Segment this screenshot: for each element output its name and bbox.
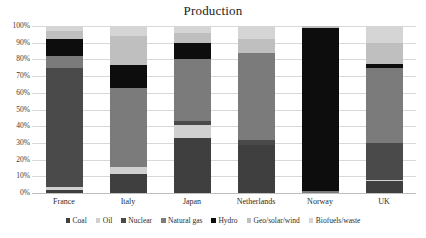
production-stacked-bar-chart: Production 100%90%80%70%60%50%40%30%20%1… bbox=[0, 0, 426, 238]
bar-segment-geo-solar-wind[interactable] bbox=[366, 43, 403, 65]
legend-item-oil[interactable]: Oil bbox=[96, 216, 113, 225]
bar-segment-biofuels-waste[interactable] bbox=[238, 26, 275, 39]
gridline bbox=[32, 193, 416, 194]
bar-segment-natural-gas[interactable] bbox=[174, 59, 211, 121]
legend-label-geo-solar-wind: Geo/solar/wind bbox=[254, 216, 300, 225]
bar-segment-hydro[interactable] bbox=[174, 43, 211, 60]
x-axis-label-france: France bbox=[32, 196, 96, 208]
y-axis-tick-label: 40% bbox=[0, 122, 30, 130]
bar-segment-biofuels-waste[interactable] bbox=[110, 26, 147, 36]
bar-segment-nuclear[interactable] bbox=[46, 68, 83, 187]
y-axis-tick-label: 0% bbox=[0, 189, 30, 197]
bar-segment-biofuels-waste[interactable] bbox=[366, 26, 403, 43]
x-axis-label-italy: Italy bbox=[96, 196, 160, 208]
gridline bbox=[32, 126, 416, 127]
bar-segment-geo-solar-wind[interactable] bbox=[46, 31, 83, 39]
bar-japan[interactable] bbox=[174, 26, 211, 193]
legend-swatch-coal bbox=[66, 218, 71, 223]
bar-segment-geo-solar-wind[interactable] bbox=[174, 33, 211, 43]
legend-label-biofuels-waste: Biofuels/waste bbox=[316, 216, 361, 225]
chart-title: Production bbox=[0, 3, 426, 19]
bar-segment-hydro[interactable] bbox=[110, 65, 147, 88]
gridline bbox=[32, 59, 416, 60]
bar-segment-nuclear[interactable] bbox=[366, 143, 403, 180]
legend-label-coal: Coal bbox=[73, 216, 87, 225]
legend-label-oil: Oil bbox=[103, 216, 113, 225]
bar-segment-natural-gas[interactable] bbox=[110, 88, 147, 167]
bar-segment-hydro[interactable] bbox=[46, 39, 83, 56]
plot-area bbox=[32, 26, 416, 193]
legend-item-coal[interactable]: Coal bbox=[66, 216, 87, 225]
bar-segment-coal[interactable] bbox=[238, 145, 275, 193]
bar-france[interactable] bbox=[46, 26, 83, 193]
bar-italy[interactable] bbox=[110, 26, 147, 193]
gridline bbox=[32, 26, 416, 27]
bar-segment-coal[interactable] bbox=[46, 190, 83, 193]
legend-swatch-natural-gas bbox=[161, 218, 166, 223]
y-axis-tick-label: 70% bbox=[0, 72, 30, 80]
y-axis-tick-label: 90% bbox=[0, 39, 30, 47]
legend-swatch-hydro bbox=[211, 218, 216, 223]
bar-segment-geo-solar-wind[interactable] bbox=[238, 39, 275, 52]
gridline bbox=[32, 43, 416, 44]
bar-segment-coal[interactable] bbox=[366, 181, 403, 193]
legend-swatch-biofuels-waste bbox=[309, 218, 314, 223]
legend-label-hydro: Hydro bbox=[218, 216, 237, 225]
y-axis-tick-label: 30% bbox=[0, 139, 30, 147]
bar-uk[interactable] bbox=[366, 26, 403, 193]
bar-segment-biofuels-waste[interactable] bbox=[174, 26, 211, 33]
bar-segment-natural-gas[interactable] bbox=[238, 53, 275, 140]
gridline bbox=[32, 93, 416, 94]
x-axis-label-norway: Norway bbox=[288, 196, 352, 208]
bar-netherlands[interactable] bbox=[238, 26, 275, 193]
bar-segment-natural-gas[interactable] bbox=[46, 56, 83, 68]
legend-swatch-oil bbox=[96, 218, 101, 223]
legend-item-natural-gas[interactable]: Natural gas bbox=[161, 216, 202, 225]
bar-segment-coal[interactable] bbox=[110, 174, 147, 193]
y-axis-tick-label: 10% bbox=[0, 172, 30, 180]
legend-item-biofuels-waste[interactable]: Biofuels/waste bbox=[309, 216, 361, 225]
bar-segment-natural-gas[interactable] bbox=[366, 68, 403, 143]
bar-segment-coal[interactable] bbox=[174, 138, 211, 193]
bar-segment-oil[interactable] bbox=[110, 167, 147, 174]
bar-segment-natural-gas[interactable] bbox=[302, 191, 339, 194]
x-axis-label-japan: Japan bbox=[160, 196, 224, 208]
x-axis-label-uk: UK bbox=[352, 196, 416, 208]
legend-item-hydro[interactable]: Hydro bbox=[211, 216, 237, 225]
y-axis-tick-label: 80% bbox=[0, 55, 30, 63]
legend-swatch-geo-solar-wind bbox=[247, 218, 252, 223]
gridline bbox=[32, 143, 416, 144]
legend-label-natural-gas: Natural gas bbox=[168, 216, 202, 225]
y-axis-tick-label: 100% bbox=[0, 22, 30, 30]
y-axis-tick-label: 60% bbox=[0, 89, 30, 97]
x-axis-label-netherlands: Netherlands bbox=[224, 196, 288, 208]
chart-legend: CoalOilNuclearNatural gasHydroGeo/solar/… bbox=[0, 216, 426, 225]
legend-label-nuclear: Nuclear bbox=[128, 216, 152, 225]
bar-segment-geo-solar-wind[interactable] bbox=[110, 36, 147, 65]
y-axis-tick-label: 50% bbox=[0, 106, 30, 114]
gridline bbox=[32, 76, 416, 77]
bar-segment-oil[interactable] bbox=[174, 125, 211, 138]
y-axis: 100%90%80%70%60%50%40%30%20%10%0% bbox=[0, 26, 30, 193]
gridline bbox=[32, 176, 416, 177]
gridline bbox=[32, 110, 416, 111]
legend-swatch-nuclear bbox=[121, 218, 126, 223]
bar-segment-hydro[interactable] bbox=[302, 28, 339, 191]
y-axis-tick-label: 20% bbox=[0, 156, 30, 164]
x-axis: FranceItalyJapanNetherlandsNorwayUK bbox=[32, 196, 416, 210]
legend-item-geo-solar-wind[interactable]: Geo/solar/wind bbox=[247, 216, 300, 225]
gridline bbox=[32, 160, 416, 161]
bar-norway[interactable] bbox=[302, 26, 339, 193]
legend-item-nuclear[interactable]: Nuclear bbox=[121, 216, 152, 225]
